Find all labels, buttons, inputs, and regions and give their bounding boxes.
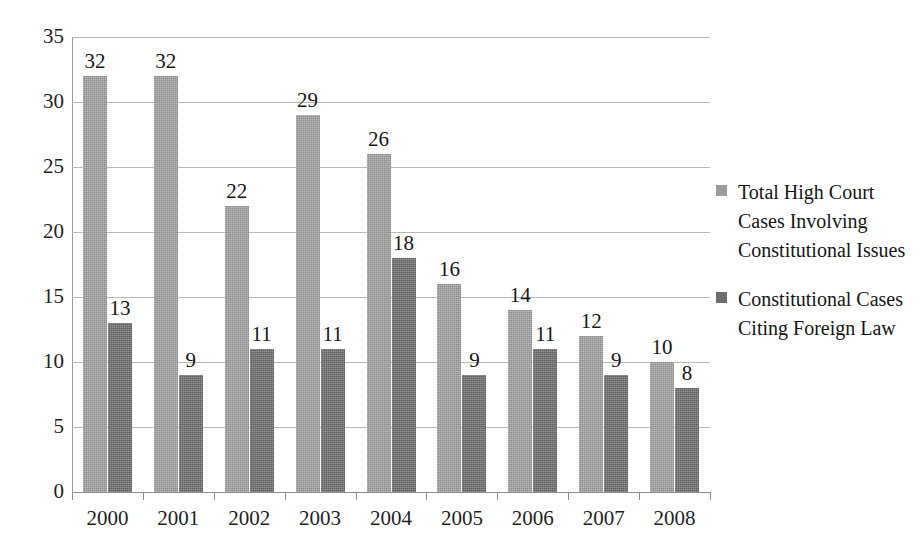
y-tick-label: 15 <box>18 286 64 307</box>
bar-rect[interactable] <box>604 375 628 492</box>
bar-chart: 05101520253035 3213329221129112618169141… <box>0 0 923 549</box>
x-tick-label-2002: 2002 <box>211 506 287 530</box>
legend-entry-0[interactable]: Total High Court Cases Involving Constit… <box>716 178 916 265</box>
bar-value-label: 11 <box>523 324 567 345</box>
x-tick-label-2008: 2008 <box>637 506 713 530</box>
bar-rect[interactable] <box>225 206 249 492</box>
x-tick-mark <box>72 492 73 500</box>
legend-square-marker-icon <box>716 185 727 196</box>
x-tick-mark <box>497 492 498 500</box>
y-tick-label: 5 <box>18 416 64 437</box>
x-tick-mark <box>710 492 711 500</box>
bar-value-label: 9 <box>452 350 496 371</box>
legend-square-marker-icon <box>716 292 727 303</box>
bar-group-2004: 2618 <box>367 37 416 492</box>
bar-group-2008: 108 <box>650 37 699 492</box>
x-tick-mark <box>285 492 286 500</box>
x-tick-mark <box>568 492 569 500</box>
bar-rect[interactable] <box>250 349 274 492</box>
x-axis: 200020012002200320042005200620072008 <box>72 492 710 547</box>
bar-rect[interactable] <box>108 323 132 492</box>
y-axis-tick-labels: 05101520253035 <box>12 37 64 492</box>
x-tick-label-2000: 2000 <box>69 506 145 530</box>
x-tick-mark <box>426 492 427 500</box>
y-tick-label: 10 <box>18 351 64 372</box>
legend-entry-1[interactable]: Constitutional Cases Citing Foreign Law <box>716 285 916 343</box>
bar-group-2002: 2211 <box>225 37 274 492</box>
x-tick-mark <box>356 492 357 500</box>
bar-group-2007: 129 <box>579 37 628 492</box>
bar-value-label: 18 <box>382 233 426 254</box>
plot-area: 32133292211291126181691411129108 <box>72 37 710 492</box>
x-tick-label-2005: 2005 <box>424 506 500 530</box>
bar-group-2000: 3213 <box>83 37 132 492</box>
bar-value-label: 14 <box>498 285 542 306</box>
bar-value-label: 13 <box>98 298 142 319</box>
x-tick-mark <box>214 492 215 500</box>
x-tick-label-2001: 2001 <box>140 506 216 530</box>
legend-label: Total High Court Cases Involving Constit… <box>738 181 905 261</box>
legend-label: Constitutional Cases Citing Foreign Law <box>738 288 903 339</box>
bar-rect[interactable] <box>437 284 461 492</box>
bar-rect[interactable] <box>675 388 699 492</box>
bar-rect[interactable] <box>179 375 203 492</box>
bar-rect[interactable] <box>533 349 557 492</box>
bar-value-label: 11 <box>311 324 355 345</box>
bar-rect[interactable] <box>296 115 320 492</box>
bar-value-label: 8 <box>665 363 709 384</box>
x-tick-mark <box>143 492 144 500</box>
bar-value-label: 9 <box>169 350 213 371</box>
bar-value-label: 29 <box>286 90 330 111</box>
bar-rect[interactable] <box>392 258 416 492</box>
x-tick-label-2004: 2004 <box>353 506 429 530</box>
bar-value-label: 12 <box>569 311 613 332</box>
x-tick-label-2003: 2003 <box>282 506 358 530</box>
bar-rect[interactable] <box>154 76 178 492</box>
bar-group-2006: 1411 <box>508 37 557 492</box>
bar-group-2001: 329 <box>154 37 203 492</box>
bar-value-label: 22 <box>215 181 259 202</box>
bar-value-label: 26 <box>357 129 401 150</box>
x-tick-label-2007: 2007 <box>566 506 642 530</box>
bar-value-label: 16 <box>427 259 471 280</box>
bar-value-label: 32 <box>144 51 188 72</box>
bar-group-2003: 2911 <box>296 37 345 492</box>
bar-value-label: 11 <box>240 324 284 345</box>
y-tick-label: 30 <box>18 91 64 112</box>
x-tick-mark <box>639 492 640 500</box>
bar-group-2005: 169 <box>437 37 486 492</box>
y-tick-label: 25 <box>18 156 64 177</box>
y-tick-label: 0 <box>18 481 64 502</box>
y-tick-label: 35 <box>18 26 64 47</box>
y-tick-label: 20 <box>18 221 64 242</box>
x-tick-label-2006: 2006 <box>495 506 571 530</box>
chart-legend: Total High Court Cases Involving Constit… <box>716 178 916 363</box>
bar-value-label: 10 <box>640 337 684 358</box>
bar-rect[interactable] <box>367 154 391 492</box>
bar-rect[interactable] <box>462 375 486 492</box>
bar-value-label: 9 <box>594 350 638 371</box>
bar-rect[interactable] <box>83 76 107 492</box>
bar-value-label: 32 <box>73 51 117 72</box>
bar-rect[interactable] <box>321 349 345 492</box>
